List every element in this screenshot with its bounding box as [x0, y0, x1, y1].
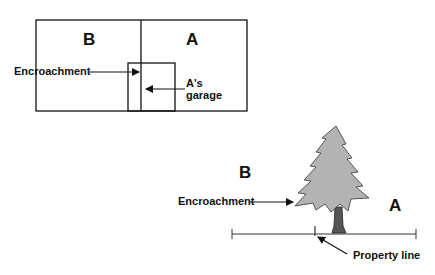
tree-foliage	[295, 126, 369, 212]
lot-a-label-bottom: A	[389, 196, 401, 216]
garage-outline	[128, 63, 175, 111]
diagram-canvas	[0, 0, 435, 275]
garage-label-line1: A's	[186, 77, 203, 89]
bottom-tree-diagram	[232, 126, 416, 254]
encroachment-label-bottom: Encroachment	[178, 195, 254, 207]
lot-b-label-bottom: B	[239, 163, 251, 183]
tree-trunk	[332, 207, 346, 233]
lot-a-label-top: A	[186, 30, 198, 50]
property-line-label: Property line	[353, 249, 420, 261]
property-line-arrow	[318, 237, 347, 254]
lot-b-label-top: B	[83, 30, 95, 50]
encroachment-label-top: Encroachment	[14, 65, 90, 77]
garage-label-line2: garage	[186, 89, 222, 101]
